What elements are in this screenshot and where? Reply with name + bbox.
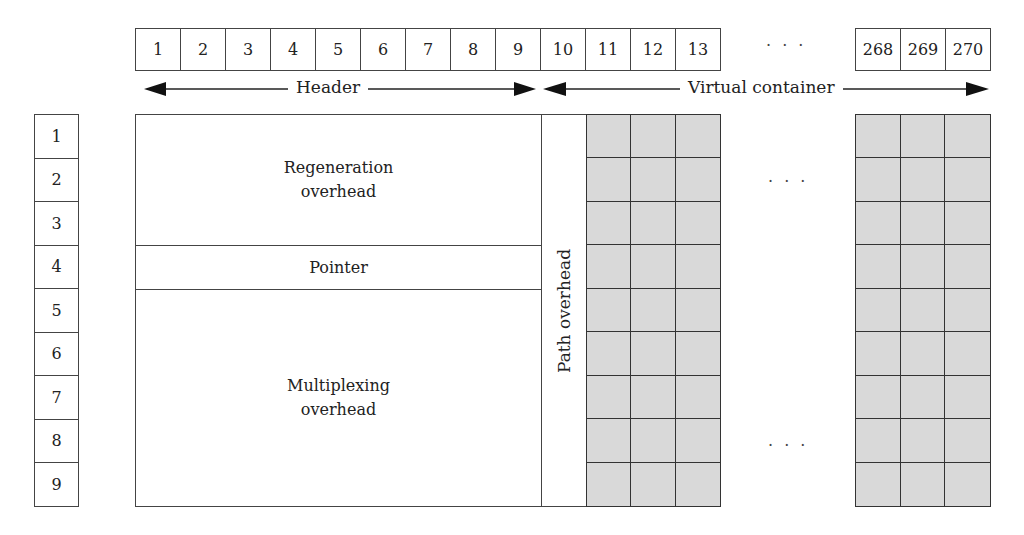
path-overhead-label: Path overhead (554, 248, 574, 372)
row-cell: 4 (34, 245, 79, 290)
column-cell: 268 (855, 28, 901, 71)
payload-grid-start (586, 114, 721, 507)
column-cell: 13 (675, 28, 721, 71)
grid-ellipsis-bottom: · · · (768, 436, 808, 455)
column-cell: 3 (225, 28, 271, 71)
column-cell: 6 (360, 28, 406, 71)
column-cell: 5 (315, 28, 361, 71)
column-cell: 269 (900, 28, 946, 71)
path-overhead-column: Path overhead (541, 114, 587, 507)
row-cell: 3 (34, 201, 79, 246)
pointer-label: Pointer (309, 256, 368, 280)
column-cell: 4 (270, 28, 316, 71)
row-cell: 1 (34, 114, 79, 159)
regeneration-overhead: Regeneration overhead (136, 115, 541, 246)
row-cell: 5 (34, 288, 79, 333)
column-cell: 270 (945, 28, 991, 71)
multiplexing-overhead: Multiplexing overhead (136, 290, 541, 506)
column-cell: 12 (630, 28, 676, 71)
row-cell: 2 (34, 158, 79, 203)
payload-grid-end (855, 114, 991, 507)
row-cell: 8 (34, 419, 79, 464)
row-cell: 7 (34, 375, 79, 420)
column-cell: 10 (540, 28, 586, 71)
column-cell: 1 (135, 28, 181, 71)
column-cell: 2 (180, 28, 226, 71)
grid-ellipsis-top: · · · (768, 172, 808, 191)
virtual-container-label: Virtual container (680, 77, 843, 97)
row-cell: 9 (34, 462, 79, 507)
row-cell: 6 (34, 332, 79, 377)
header-label: Header (288, 77, 368, 97)
section-overhead-block: Regeneration overhead Pointer Multiplexi… (135, 114, 542, 507)
column-cell: 11 (585, 28, 631, 71)
pointer-section: Pointer (136, 246, 541, 290)
multiplexing-overhead-label: Multiplexing overhead (274, 374, 404, 422)
column-cell: 9 (495, 28, 541, 71)
column-cell: 8 (450, 28, 496, 71)
regeneration-overhead-label: Regeneration overhead (274, 156, 404, 204)
column-cell: 7 (405, 28, 451, 71)
column-ellipsis: · · · (766, 36, 806, 55)
